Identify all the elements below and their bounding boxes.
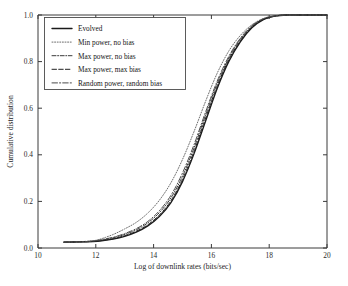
legend-label-1: Min power, no bias — [78, 38, 135, 47]
x-tick-label: 10 — [34, 251, 42, 260]
y-tick-label: 0.4 — [24, 150, 34, 159]
x-tick-label: 20 — [323, 251, 331, 260]
y-tick-label: 0.0 — [24, 244, 34, 253]
y-tick-label: 0.6 — [24, 104, 34, 113]
y-axis-label: Cumulative distribution — [6, 95, 15, 168]
y-tick-label: 0.2 — [24, 197, 34, 206]
x-tick-label: 12 — [92, 251, 100, 260]
y-tick-label: 0.8 — [24, 57, 34, 66]
legend[interactable]: EvolvedMin power, no biasMax power, no b… — [45, 18, 186, 90]
x-axis-label: Log of downlink rates (bits/sec) — [134, 262, 231, 271]
x-tick-label: 18 — [266, 251, 274, 260]
legend-label-0: Evolved — [78, 24, 103, 33]
y-tick-label: 1.0 — [24, 11, 34, 20]
x-tick-label: 14 — [150, 251, 158, 260]
x-tick-label: 16 — [208, 251, 216, 260]
legend-label-3: Max power, max bias — [78, 65, 141, 74]
figure-canvas: 101214161820 0.00.20.40.60.81.0 Log of d… — [0, 0, 348, 286]
legend-label-4: Random power, random bias — [78, 79, 162, 88]
legend-label-2: Max power, no bias — [78, 52, 136, 61]
